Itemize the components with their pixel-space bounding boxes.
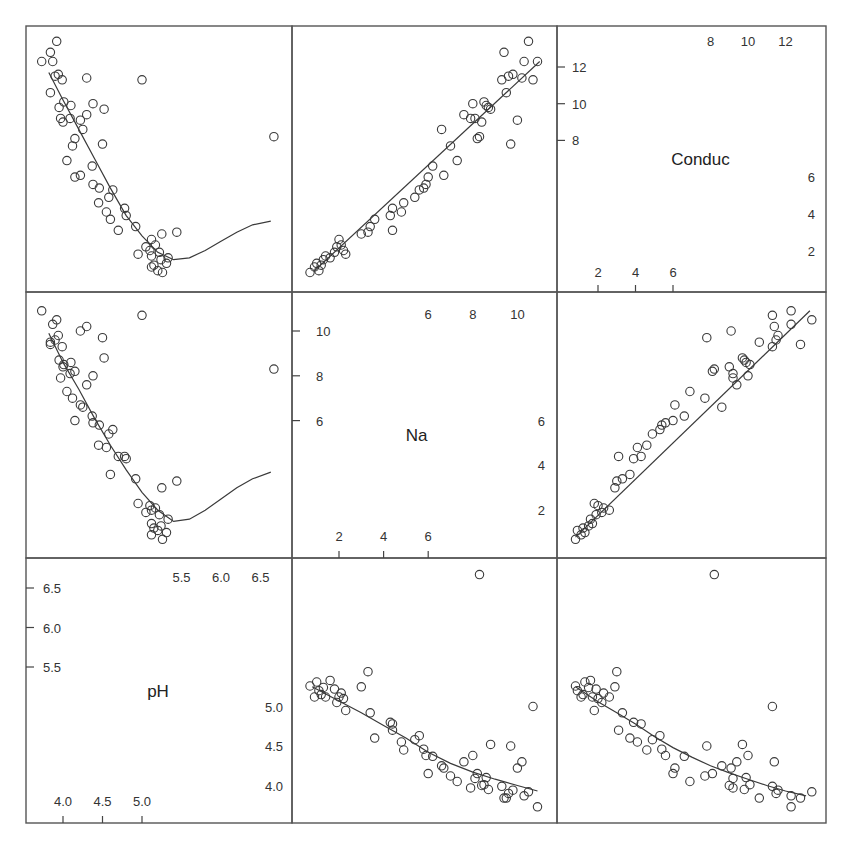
data-point [507,742,515,750]
scatter-na-vs-conduc [571,307,816,544]
data-point [710,365,718,373]
data-point [770,322,778,330]
data-point [58,343,66,351]
tick-label-left: 10 [316,324,330,339]
panel-ph-vs-ph [557,558,826,823]
data-point [686,387,694,395]
data-point [397,208,405,216]
data-point [703,742,711,750]
data-point [371,215,379,223]
data-point [335,235,343,243]
tick-label-top: 6 [425,307,432,322]
tick-label-top: 8 [707,34,714,49]
panel-na-vs-conduc [26,292,292,558]
data-point [122,455,130,463]
data-point [306,268,314,276]
data-point [138,76,146,84]
data-point [371,734,379,742]
data-point [473,134,481,142]
data-point [755,794,763,802]
panel-na-vs-na [292,292,557,558]
tick-label-left: 12 [572,60,586,75]
data-point [38,57,46,65]
data-point [326,676,334,684]
tick-label-bottom: 4 [632,265,639,280]
data-point [738,740,746,748]
loess-smooth-line [315,62,540,271]
diagonal-label-ph: pH [147,682,169,701]
scatterplot-matrix: Conduc8101281012246246Na68106810246246pH… [0,0,857,848]
data-point [626,470,634,478]
data-point [94,441,102,449]
data-point [71,416,79,424]
panel-ph-vs-na [292,558,557,823]
scatter-conduc-vs-na [306,37,542,277]
data-point [158,268,166,276]
data-point [102,208,110,216]
data-point [460,758,468,766]
data-point [592,685,600,693]
data-point [471,774,479,782]
data-point [520,57,528,65]
data-point [437,125,445,133]
tick-label-bottom: 2 [335,529,342,544]
data-point [397,738,405,746]
data-point [661,751,669,759]
data-point [270,133,278,141]
tick-label-left: 5.5 [43,660,61,675]
data-point [708,367,716,375]
data-point [71,134,79,142]
data-point [500,48,508,56]
data-point [629,455,637,463]
data-point [669,769,677,777]
tick-label-bottom: 5.0 [133,794,151,809]
data-point [88,162,96,170]
tick-label-bottom: 4.0 [54,794,72,809]
data-point [55,103,63,111]
tick-label-right: 2 [538,503,545,518]
data-point [680,412,688,420]
panel-conduc-vs-na [292,26,557,292]
data-point [342,706,350,714]
tick-label-top: 5.5 [172,570,190,585]
data-point [98,140,106,148]
data-point [330,685,338,693]
data-point [648,430,656,438]
data-point [755,338,763,346]
data-point [643,441,651,449]
data-point [357,683,365,691]
tick-label-bottom: 2 [594,265,601,280]
tick-label-left: 8 [316,369,323,384]
tick-label-left: 6.0 [43,621,61,636]
scatter-ph-vs-na [306,570,542,811]
data-point [89,372,97,380]
data-point [740,356,748,364]
panel-frames [26,26,826,823]
data-point [388,226,396,234]
data-point [498,782,506,790]
data-point [708,769,716,777]
data-point [727,327,735,335]
data-point [46,89,54,97]
data-point [533,803,541,811]
data-point [643,746,651,754]
data-point [768,702,776,710]
data-point [533,57,541,65]
data-point [614,726,622,734]
data-point [138,311,146,319]
data-point [590,706,598,714]
data-point [475,133,483,141]
data-point [386,211,394,219]
scatter-conduc-vs-ph [38,37,279,277]
data-point [440,171,448,179]
data-point [475,570,483,578]
data-point [56,374,64,382]
data-point [484,103,492,111]
data-point [437,762,445,770]
data-point [787,307,795,315]
data-point [400,746,408,754]
data-point [79,403,87,411]
data-point [618,475,626,483]
data-point [740,785,748,793]
tick-label-right: 4 [808,207,815,222]
